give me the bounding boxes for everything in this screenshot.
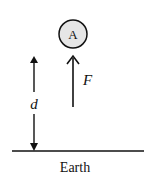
object-a: A — [59, 20, 87, 48]
distance-arrowhead-down-icon — [30, 143, 38, 151]
ground-label: Earth — [60, 160, 90, 175]
diagram-canvas: A F d Earth — [0, 0, 156, 181]
distance-label: d — [30, 96, 38, 112]
force-arrow: F — [67, 56, 93, 107]
distance-arrowhead-up-icon — [30, 56, 38, 63]
object-label: A — [68, 27, 78, 42]
distance-arrow: d — [30, 56, 38, 151]
force-label: F — [82, 72, 93, 88]
